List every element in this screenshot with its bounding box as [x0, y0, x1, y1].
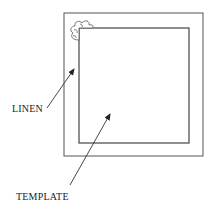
fold-corner-icon [71, 21, 93, 40]
template-arrow [70, 114, 110, 185]
linen-square [64, 13, 203, 156]
diagram-canvas: LINEN TEMPLATE [0, 0, 215, 215]
template-square [79, 28, 189, 143]
linen-arrow [47, 69, 74, 108]
template-label: TEMPLATE [16, 192, 69, 202]
linen-label: LINEN [12, 104, 43, 114]
